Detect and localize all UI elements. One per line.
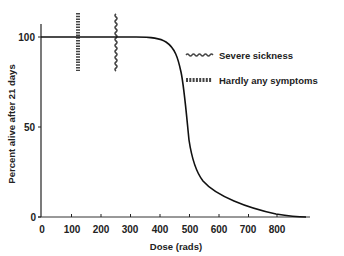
survival-curve	[41, 37, 306, 217]
y-tick-label-0: 0	[30, 212, 36, 223]
x-tick-label-800: 800	[269, 224, 286, 235]
y-axis-title: Percent alive after 21 days	[6, 64, 17, 183]
x-tick-label-600: 600	[211, 224, 228, 235]
x-tick-label-500: 500	[182, 224, 199, 235]
legend-label-severe-sickness: Severe sickness	[219, 50, 293, 61]
x-tick-label-100: 100	[64, 224, 81, 235]
x-tick-label-400: 400	[152, 224, 169, 235]
x-axis-title: Dose (rads)	[150, 241, 202, 252]
marker-severe-sickness	[115, 14, 117, 71]
y-tick-label-50: 50	[24, 122, 36, 133]
y-tick-label-100: 100	[18, 32, 35, 43]
legend-label-hardly-any-symptoms: Hardly any symptoms	[219, 75, 318, 86]
x-tick-label-0: 0	[39, 224, 45, 235]
legend-swatch-severe-sickness	[186, 54, 213, 56]
x-tick-label-300: 300	[122, 224, 139, 235]
x-tick-label-200: 200	[93, 224, 110, 235]
legend: Severe sickness Hardly any symptoms	[186, 50, 318, 86]
survival-chart: 100 50 0 0 100 200 300 400 500 600 700 8…	[0, 0, 344, 256]
x-tick-label-700: 700	[240, 224, 257, 235]
